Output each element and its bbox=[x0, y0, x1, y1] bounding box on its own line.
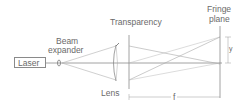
laser-label: Laser bbox=[18, 58, 39, 68]
expander-label: expander bbox=[48, 45, 83, 55]
plane-label: plane bbox=[209, 14, 230, 24]
focal-length-label: f bbox=[171, 92, 177, 102]
laser-box: Laser bbox=[14, 57, 46, 68]
fringe-offset-label: y bbox=[229, 44, 233, 54]
lens-label: Lens bbox=[101, 88, 119, 98]
fringe-label: Fringe bbox=[207, 4, 231, 14]
transparency-label: Transparency bbox=[110, 17, 162, 27]
